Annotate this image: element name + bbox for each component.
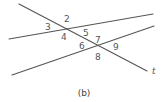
angle-label-4: 4	[61, 32, 67, 42]
angle-label-5: 5	[83, 28, 89, 38]
angle-label-3: 3	[45, 22, 51, 32]
angle-label-8: 8	[95, 52, 101, 62]
angle-label-6: 6	[79, 41, 85, 51]
angle-label-9: 9	[113, 42, 119, 52]
transversal-label: t	[152, 66, 156, 76]
transversal-diagram: 3 2 4 5 6 7 9 8 t (b)	[0, 0, 167, 102]
figure-caption: (b)	[78, 88, 91, 98]
angle-label-2: 2	[64, 14, 70, 24]
angle-label-7: 7	[95, 35, 101, 45]
upper-line	[9, 14, 153, 39]
